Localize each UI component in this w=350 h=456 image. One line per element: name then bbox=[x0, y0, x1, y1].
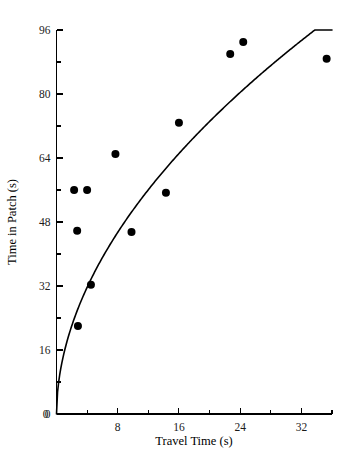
y-axis-title: Time in Patch (s) bbox=[5, 179, 19, 265]
y-tick-label: 16 bbox=[39, 344, 51, 356]
data-points-group bbox=[70, 38, 331, 330]
chart-canvas: 0163248648096 08162432 Travel Time (s) T… bbox=[0, 0, 350, 456]
data-point bbox=[111, 150, 119, 158]
scatter-chart: 0163248648096 08162432 Travel Time (s) T… bbox=[0, 0, 350, 456]
data-point bbox=[74, 322, 82, 330]
y-tick-label: 96 bbox=[39, 24, 51, 36]
x-tick-label: 0 bbox=[43, 408, 49, 420]
x-axis-ticks bbox=[57, 408, 333, 414]
y-tick-label: 32 bbox=[39, 280, 51, 292]
fitted-curve bbox=[57, 30, 333, 414]
data-point bbox=[83, 186, 91, 194]
x-tick-label: 24 bbox=[234, 421, 246, 433]
x-axis-tick-labels: 08162432 bbox=[43, 408, 308, 433]
x-tick-label: 32 bbox=[296, 421, 308, 433]
data-point bbox=[128, 228, 136, 236]
y-axis-ticks bbox=[57, 30, 63, 414]
data-point bbox=[175, 119, 183, 127]
data-point bbox=[73, 227, 81, 235]
data-point bbox=[70, 186, 78, 194]
data-point bbox=[162, 189, 170, 197]
y-axis-tick-labels: 0163248648096 bbox=[39, 24, 51, 420]
y-tick-label: 48 bbox=[39, 216, 51, 228]
data-point bbox=[226, 50, 234, 58]
x-axis-title: Travel Time (s) bbox=[155, 434, 232, 448]
data-point bbox=[323, 55, 331, 63]
data-point bbox=[87, 281, 95, 289]
x-tick-label: 8 bbox=[115, 421, 121, 433]
y-tick-label: 80 bbox=[39, 88, 51, 100]
x-tick-label: 16 bbox=[173, 421, 185, 433]
axes-group bbox=[57, 30, 333, 414]
y-tick-label: 64 bbox=[39, 152, 51, 164]
data-point bbox=[239, 38, 247, 46]
